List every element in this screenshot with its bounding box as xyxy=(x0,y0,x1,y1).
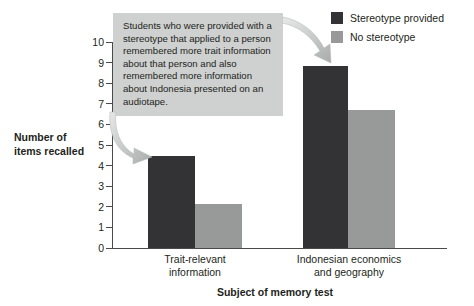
y-tick-label: 8 xyxy=(84,78,104,89)
y-tick-mark xyxy=(106,124,112,125)
y-tick-mark xyxy=(106,206,112,207)
legend-swatch-gray xyxy=(331,31,343,43)
category-label-line2: and geography xyxy=(314,266,384,278)
y-tick-mark xyxy=(106,186,112,187)
y-tick-mark xyxy=(106,227,112,228)
bar-chart-figure: 109876543210 Number of items recalled Tr… xyxy=(0,0,474,306)
y-tick-mark xyxy=(106,165,112,166)
x-axis-title: Subject of memory test xyxy=(217,286,333,298)
y-tick-label: 0 xyxy=(84,243,104,254)
legend-item-stereotype-provided: Stereotype provided xyxy=(331,9,444,26)
legend: Stereotype provided No stereotype xyxy=(331,9,444,47)
y-tick-mark xyxy=(106,248,112,249)
bar-group2-stereotype-provided xyxy=(303,66,348,248)
y-tick-label: 7 xyxy=(84,99,104,110)
bar-group2-no-stereotype xyxy=(348,110,395,248)
y-axis-title-line2: items recalled xyxy=(14,145,84,157)
legend-label: No stereotype xyxy=(350,31,415,43)
x-axis-title-wrap: Subject of memory test xyxy=(0,286,474,298)
callout-annotation: Students who were provided with a stereo… xyxy=(113,13,283,116)
category-label-line1: Indonesian economics xyxy=(297,253,401,265)
y-tick-label: 1 xyxy=(84,222,104,233)
category-label-trait-relevant: Trait-relevant information xyxy=(125,253,265,279)
legend-item-no-stereotype: No stereotype xyxy=(331,28,444,45)
y-tick-mark xyxy=(106,103,112,104)
category-label-indonesian-economics: Indonesian economics and geography xyxy=(279,253,419,279)
y-tick-label: 10 xyxy=(84,37,104,48)
y-tick-mark xyxy=(106,145,112,146)
y-tick-mark xyxy=(106,42,112,43)
category-label-line1: Trait-relevant xyxy=(164,253,225,265)
y-tick-mark xyxy=(106,83,112,84)
y-axis-title-line1: Number of xyxy=(14,131,67,143)
y-tick-mark xyxy=(106,62,112,63)
category-label-line2: information xyxy=(169,266,221,278)
y-tick-label: 9 xyxy=(84,58,104,69)
y-axis-title: Number of items recalled xyxy=(14,131,106,158)
y-tick-label: 2 xyxy=(84,202,104,213)
y-tick-label: 4 xyxy=(84,161,104,172)
legend-label: Stereotype provided xyxy=(350,12,444,24)
bar-group1-stereotype-provided xyxy=(148,156,195,248)
legend-swatch-dark xyxy=(331,12,343,24)
y-tick-label: 3 xyxy=(84,181,104,192)
bar-group1-no-stereotype xyxy=(195,204,242,248)
x-axis-line xyxy=(112,248,447,249)
y-tick-label: 6 xyxy=(84,119,104,130)
